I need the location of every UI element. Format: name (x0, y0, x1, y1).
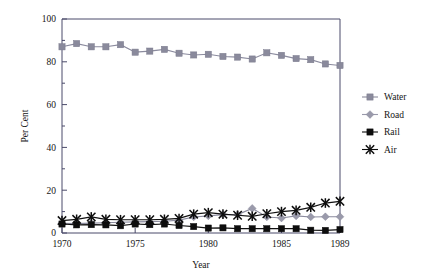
data-point-marker (321, 213, 329, 221)
data-point-marker (337, 226, 343, 232)
legend-label: Air (384, 145, 398, 155)
series-layer (58, 41, 344, 234)
data-point-marker (248, 205, 256, 213)
legend-item-road[interactable]: Road (362, 110, 404, 120)
data-point-marker (293, 226, 299, 232)
data-point-marker (322, 227, 328, 233)
chart-legend: WaterRoadRailAir (362, 92, 407, 154)
chart-container: 020406080100 19701975198019851989 Per Ce… (0, 0, 432, 279)
legend-label: Rail (384, 127, 400, 137)
data-point-marker (103, 44, 109, 50)
x-tick-label: 1985 (272, 239, 291, 249)
legend-label: Road (384, 110, 404, 120)
data-point-marker (161, 46, 167, 52)
data-point-marker (191, 223, 197, 229)
x-axis-ticks: 19701975198019851989 (53, 228, 350, 249)
data-point-marker (205, 51, 211, 57)
data-point-marker (59, 44, 65, 50)
x-tick-label: 1989 (331, 239, 350, 249)
data-point-marker (220, 225, 226, 231)
series-water (59, 41, 343, 69)
data-point-marker (367, 129, 373, 135)
data-point-marker (322, 61, 328, 67)
y-tick-label: 40 (47, 143, 57, 153)
x-tick-label: 1980 (199, 239, 218, 249)
y-tick-label: 60 (47, 100, 57, 110)
legend-item-air[interactable]: Air (362, 145, 398, 155)
line-chart: 020406080100 19701975198019851989 Per Ce… (0, 0, 432, 279)
y-tick-label: 100 (42, 14, 57, 24)
data-point-marker (337, 62, 343, 68)
data-point-marker (249, 226, 255, 232)
series-air (58, 197, 344, 226)
data-point-marker (74, 41, 80, 47)
plot-frame (62, 19, 340, 233)
data-point-marker (88, 44, 94, 50)
data-point-marker (220, 53, 226, 59)
legend-item-rail[interactable]: Rail (362, 127, 400, 137)
data-point-marker (307, 213, 315, 221)
data-point-marker (132, 49, 138, 55)
data-point-marker (117, 42, 123, 48)
data-point-marker (205, 225, 211, 231)
data-point-marker (264, 226, 270, 232)
legend-item-water[interactable]: Water (362, 92, 407, 102)
data-point-marker (278, 52, 284, 58)
data-point-marker (308, 227, 314, 233)
data-point-marker (278, 226, 284, 232)
x-tick-label: 1975 (126, 239, 145, 249)
data-point-marker (367, 94, 373, 100)
data-point-marker (249, 56, 255, 62)
y-tick-label: 0 (51, 228, 56, 238)
data-point-marker (234, 226, 240, 232)
series-road (58, 205, 344, 228)
data-point-marker (234, 54, 240, 60)
legend-label: Water (384, 92, 407, 102)
data-point-marker (293, 55, 299, 61)
data-point-marker (176, 222, 182, 228)
y-tick-label: 80 (47, 57, 57, 67)
data-point-marker (147, 48, 153, 54)
data-point-marker (88, 222, 94, 228)
data-point-marker (336, 213, 344, 221)
data-point-marker (176, 50, 182, 56)
y-tick-label: 20 (47, 186, 57, 196)
x-axis-title: Year (192, 260, 210, 270)
data-point-marker (366, 111, 374, 119)
x-tick-label: 1970 (53, 239, 72, 249)
y-axis-title: Per Cent (20, 109, 30, 142)
data-point-marker (308, 57, 314, 63)
data-point-marker (264, 50, 270, 56)
data-point-marker (191, 52, 197, 58)
